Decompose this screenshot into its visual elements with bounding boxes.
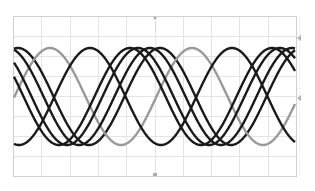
bottom-center-marker — [153, 173, 157, 176]
oscilloscope-plot — [0, 0, 315, 191]
